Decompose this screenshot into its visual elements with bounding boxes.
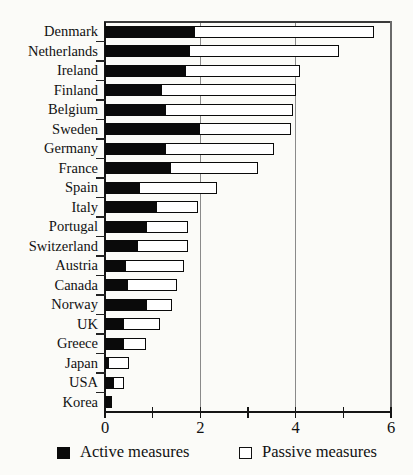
- bar-japan: [105, 357, 129, 369]
- x-axis-tick-4: [295, 407, 297, 418]
- bar-active-segment-netherlands: [106, 46, 190, 56]
- category-label-greece: Greece: [0, 334, 98, 354]
- plot-border-top: [104, 21, 392, 23]
- bar-uk: [105, 318, 160, 330]
- bar-active-segment-greece: [106, 339, 124, 349]
- bar-active-segment-ireland: [106, 66, 186, 76]
- bar-finland: [105, 84, 296, 96]
- bar-korea: [105, 396, 112, 408]
- bar-active-segment-canada: [106, 280, 128, 290]
- category-label-sweden: Sweden: [0, 120, 98, 140]
- category-label-usa: USA: [0, 373, 98, 393]
- bar-active-segment-finland: [106, 85, 162, 95]
- bar-active-segment-belgium: [106, 105, 166, 115]
- bar-active-segment-norway: [106, 300, 147, 310]
- x-axis-label-2: 2: [185, 418, 215, 438]
- bar-switzerland: [105, 240, 188, 252]
- legend-swatch-passive-measures: [239, 447, 252, 459]
- x-axis-label-0: 0: [90, 418, 120, 438]
- category-label-italy: Italy: [0, 198, 98, 218]
- bar-denmark: [105, 26, 374, 38]
- category-label-korea: Korea: [0, 393, 98, 413]
- bar-france: [105, 162, 258, 174]
- bar-germany: [105, 143, 274, 155]
- category-label-belgium: Belgium: [0, 100, 98, 120]
- bar-greece: [105, 338, 146, 350]
- bar-austria: [105, 260, 184, 272]
- x-axis-tick-6: [390, 407, 392, 418]
- bar-active-segment-germany: [106, 144, 166, 154]
- bar-active-segment-france: [106, 163, 171, 173]
- bar-sweden: [105, 123, 291, 135]
- bar-active-segment-japan: [106, 358, 109, 368]
- category-label-denmark: Denmark: [0, 22, 98, 42]
- plot-border-right: [390, 21, 392, 413]
- bar-canada: [105, 279, 177, 291]
- category-label-finland: Finland: [0, 81, 98, 101]
- legend-label-active-measures: Active measures: [80, 442, 190, 462]
- bar-portugal: [105, 221, 188, 233]
- x-axis-tick-0: [104, 407, 106, 418]
- bar-active-segment-spain: [106, 183, 140, 193]
- category-label-france: France: [0, 159, 98, 179]
- category-label-norway: Norway: [0, 295, 98, 315]
- category-label-spain: Spain: [0, 178, 98, 198]
- bar-active-segment-usa: [106, 378, 114, 388]
- category-label-canada: Canada: [0, 276, 98, 296]
- category-label-netherlands: Netherlands: [0, 42, 98, 62]
- bar-spain: [105, 182, 217, 194]
- x-axis-tick-3: [247, 407, 249, 418]
- bar-active-segment-austria: [106, 261, 126, 271]
- stacked-bar-chart-figure: DenmarkNetherlandsIrelandFinlandBelgiumS…: [0, 0, 413, 475]
- bar-active-segment-portugal: [106, 222, 147, 232]
- legend-swatch-active-measures: [57, 447, 70, 459]
- bar-active-segment-uk: [106, 319, 124, 329]
- category-label-switzerland: Switzerland: [0, 237, 98, 257]
- category-label-germany: Germany: [0, 139, 98, 159]
- x-axis-tick-1: [152, 407, 154, 418]
- bar-netherlands: [105, 45, 339, 57]
- x-axis-tick-2: [200, 407, 202, 418]
- bar-belgium: [105, 104, 293, 116]
- bar-italy: [105, 201, 198, 213]
- gridline-x-2: [200, 23, 201, 411]
- x-axis-label-6: 6: [376, 418, 406, 438]
- bar-active-segment-switzerland: [106, 241, 138, 251]
- bar-active-segment-sweden: [106, 124, 200, 134]
- category-label-portugal: Portugal: [0, 217, 98, 237]
- bar-ireland: [105, 65, 300, 77]
- bar-norway: [105, 299, 172, 311]
- x-axis-label-4: 4: [281, 418, 311, 438]
- bar-active-segment-denmark: [106, 27, 195, 37]
- bar-active-segment-italy: [106, 202, 157, 212]
- category-label-ireland: Ireland: [0, 61, 98, 81]
- gridline-x-4: [295, 23, 296, 411]
- x-axis-tick-5: [343, 407, 345, 418]
- legend-label-passive-measures: Passive measures: [262, 442, 377, 462]
- bar-active-segment-korea: [106, 397, 112, 407]
- category-label-austria: Austria: [0, 256, 98, 276]
- category-label-uk: UK: [0, 315, 98, 335]
- category-label-japan: Japan: [0, 354, 98, 374]
- bar-usa: [105, 377, 124, 389]
